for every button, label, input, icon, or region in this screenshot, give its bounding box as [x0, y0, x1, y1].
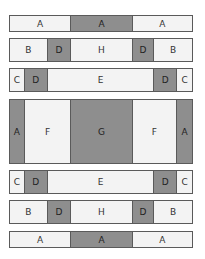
block-h: H [71, 39, 132, 61]
block-b: B [154, 201, 192, 223]
block-d: D [48, 201, 72, 223]
block-c: C [177, 69, 192, 91]
block-a: A [10, 232, 71, 247]
block-e: E [48, 69, 155, 91]
row-1: AAA [9, 15, 193, 32]
block-g: G [71, 100, 132, 163]
block-b: B [154, 39, 192, 61]
block-d: D [25, 69, 48, 91]
block-d: D [154, 171, 177, 193]
block-f: F [25, 100, 71, 163]
block-d: D [133, 39, 155, 61]
block-d: D [154, 69, 177, 91]
block-a: A [133, 232, 192, 247]
block-a: A [133, 16, 192, 31]
row-4-center: AFGFA [9, 99, 193, 164]
block-b: B [10, 201, 48, 223]
block-d: D [133, 201, 155, 223]
block-d: D [48, 39, 72, 61]
block-e: E [48, 171, 155, 193]
row-7: AAA [9, 231, 193, 248]
row-5: CDEDC [9, 170, 193, 194]
block-b: B [10, 39, 48, 61]
block-a: A [71, 232, 132, 247]
block-h: H [71, 201, 132, 223]
row-6: BDHDB [9, 200, 193, 224]
block-c: C [10, 69, 25, 91]
row-2: BDHDB [9, 38, 193, 62]
block-f: F [133, 100, 178, 163]
block-d: D [25, 171, 48, 193]
block-c: C [177, 171, 192, 193]
block-a: A [177, 100, 192, 163]
block-a: A [10, 100, 25, 163]
block-c: C [10, 171, 25, 193]
block-a: A [71, 16, 132, 31]
row-3: CDEDC [9, 68, 193, 92]
block-a: A [10, 16, 71, 31]
